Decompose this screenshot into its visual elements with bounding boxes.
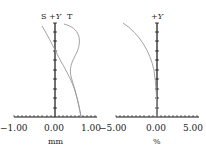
x-tick-min: −5.00: [99, 123, 127, 133]
s-curve: [42, 26, 81, 117]
distortion-plot: +Y −5.00 0.00 5.00 %: [99, 12, 203, 146]
x-tick-mid: 0.00: [146, 123, 166, 133]
x-axis-unit: mm: [48, 137, 64, 146]
legend-t: T: [67, 12, 73, 21]
x-tick-min: −1.00: [0, 123, 28, 133]
legend-y: +Y: [49, 12, 62, 21]
aberration-charts: S +Y T −1.00 0.00 1.00 mm: [0, 0, 206, 155]
t-curve: [64, 24, 81, 117]
x-axis-unit: %: [153, 137, 161, 146]
legend-s: S: [41, 12, 46, 21]
x-tick-max: 5.00: [183, 123, 203, 133]
field-curves-plot: S +Y T −1.00 0.00 1.00 mm: [0, 12, 101, 146]
distortion-curve: [123, 23, 157, 117]
legend-y: +Y: [151, 12, 164, 21]
x-tick-mid: 0.00: [44, 123, 64, 133]
